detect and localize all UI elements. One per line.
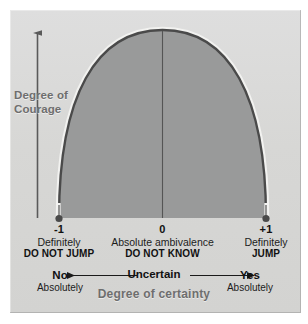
tick-desc-zero: Absolute ambivalence bbox=[92, 236, 233, 248]
tick-action-plus-one: JUMP bbox=[215, 248, 308, 260]
endpoint-dot-left bbox=[55, 215, 62, 222]
scale-yes-label: Yes bbox=[208, 268, 292, 282]
y-axis-title-line1: Degree of bbox=[14, 88, 98, 102]
tick-action-zero: DO NOT KNOW bbox=[92, 248, 233, 260]
y-axis-title: Degree of Courage bbox=[14, 88, 98, 117]
x-axis-title: Degree of certainty bbox=[0, 287, 308, 301]
endpoint-dot-right bbox=[262, 215, 269, 222]
tick-value-plus-one: +1 bbox=[215, 223, 308, 236]
tick-label-plus-one: +1 Definitely JUMP bbox=[215, 223, 308, 260]
y-axis-title-line2: Courage bbox=[14, 102, 98, 116]
figure-root: Degree of Courage -1 Definitely DO NOT J… bbox=[0, 0, 308, 324]
tick-value-zero: 0 bbox=[92, 223, 233, 236]
tick-desc-plus-one: Definitely bbox=[215, 236, 308, 248]
tick-label-zero: 0 Absolute ambivalence DO NOT KNOW bbox=[92, 223, 233, 260]
